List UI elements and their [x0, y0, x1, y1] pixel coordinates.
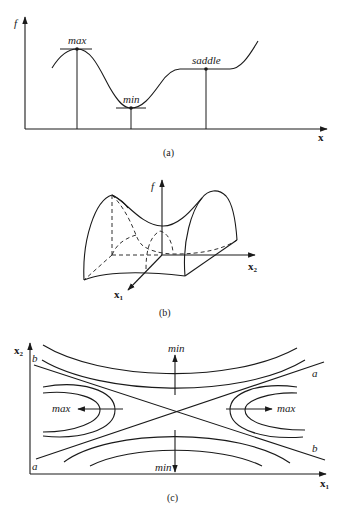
left-parabola: [84, 195, 112, 280]
x2-axis-label: x2: [248, 260, 258, 274]
f-axis-label: f: [151, 180, 156, 192]
hidden-curve: [112, 195, 237, 254]
label-a-bottom: a: [32, 460, 38, 472]
min-point: [129, 106, 133, 110]
label-b-top: b: [32, 352, 38, 364]
x1-axis-label: x1: [320, 477, 330, 491]
contour-bottom-outer: [90, 450, 262, 466]
right-parabola: [184, 198, 202, 276]
panel-a: f x max min saddle (a): [14, 17, 327, 159]
caption-b: (b): [159, 307, 171, 319]
x1-axis-label: x1: [114, 288, 124, 302]
caption-c: (c): [167, 492, 178, 504]
y-axis-label: f: [14, 17, 19, 29]
hidden-curve: [146, 231, 173, 269]
saddle-label: saddle: [192, 54, 221, 66]
label-min-top: min: [168, 342, 185, 354]
caption-a: (a): [163, 147, 174, 159]
label-a-top: a: [312, 367, 318, 379]
contour-right-inner: [245, 393, 305, 430]
panel-c: x2 x1 b a a b min min max max (c): [14, 342, 330, 504]
figure-canvas: f x max min saddle (a) f x2 x1: [0, 0, 346, 515]
max-label: max: [68, 34, 86, 46]
min-label: min: [123, 93, 140, 105]
label-max-right: max: [277, 402, 295, 414]
x2-axis-label: x2: [14, 344, 24, 358]
x-axis-label: x: [318, 131, 324, 143]
right-edge: [185, 240, 237, 276]
saddle-surface-top: [112, 191, 237, 240]
function-curve: [52, 41, 258, 108]
hidden-curve: [112, 235, 136, 255]
label-max-left: max: [52, 402, 70, 414]
front-edge: [84, 273, 185, 280]
saddle-point: [204, 67, 208, 71]
panel-b: f x2 x1 (b): [84, 180, 258, 319]
label-b-bottom: b: [312, 442, 318, 454]
label-min-bottom: min: [155, 461, 172, 473]
max-point: [75, 47, 79, 51]
